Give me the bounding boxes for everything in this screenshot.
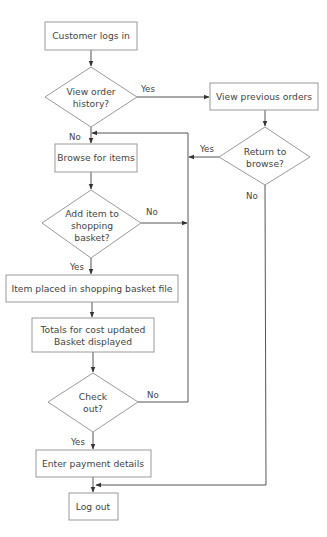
text-check-out-2: out?	[83, 403, 103, 414]
text-log-out: Log out	[76, 501, 111, 512]
text-add-item-2: shopping	[71, 220, 113, 231]
label-return-yes: Yes	[199, 144, 214, 154]
edge-loop-back	[92, 133, 188, 402]
label-checkout-yes: Yes	[70, 437, 85, 447]
text-add-item-1: Add item to	[65, 208, 119, 219]
text-view-order-history-1: View order	[66, 86, 115, 97]
text-check-out-1: Check	[79, 391, 108, 402]
label-add-yes: Yes	[69, 262, 84, 272]
label-checkout-no: No	[147, 390, 159, 400]
text-enter-payment: Enter payment details	[42, 458, 144, 469]
text-item-placed: Item placed in shopping basket file	[11, 283, 172, 294]
flowchart-canvas: Customer logs in View order history? Vie…	[0, 0, 327, 537]
text-view-order-history-2: history?	[73, 98, 110, 109]
label-history-no: No	[69, 132, 81, 142]
label-add-no: No	[146, 207, 158, 217]
text-customer-logs-in: Customer logs in	[52, 30, 130, 41]
text-add-item-3: basket?	[74, 232, 109, 243]
text-view-previous-orders: View previous orders	[216, 91, 312, 102]
text-totals-updated-2: Basket displayed	[54, 336, 132, 347]
text-totals-updated-1: Totals for cost updated	[40, 324, 146, 335]
label-return-no: No	[246, 191, 258, 201]
text-browse-for-items: Browse for items	[57, 152, 135, 163]
label-history-yes: Yes	[140, 84, 155, 94]
text-return-to-browse-2: browse?	[246, 158, 284, 169]
text-return-to-browse-1: Return to	[244, 146, 287, 157]
node-view-order-history	[45, 67, 137, 127]
